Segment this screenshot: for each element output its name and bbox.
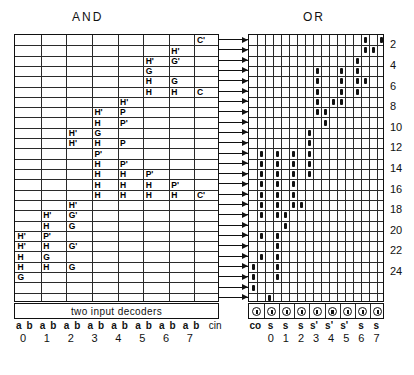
- buffer-separator: [370, 304, 371, 318]
- and-cell: H: [171, 88, 177, 97]
- or-plane-mark: [260, 202, 263, 208]
- and-cell: G: [69, 222, 76, 231]
- or-output-number: 6: [358, 332, 364, 344]
- and-cell: P': [94, 150, 102, 159]
- or-output-number: 1: [283, 332, 289, 344]
- or-plane-mark: [364, 47, 367, 53]
- or-plane-mark: [260, 233, 263, 239]
- or-plane-mark: [252, 264, 255, 270]
- and-plane: C'H'H'G'GHGHHCH'H'PHP'H'GH'HPP'HP'HHP'HH…: [14, 34, 219, 302]
- or-plane-mark: [356, 89, 359, 95]
- product-term-arrow: [219, 122, 248, 123]
- and-input-label: a: [40, 320, 46, 331]
- row-number: 4: [390, 59, 396, 71]
- product-term-arrow: [219, 111, 248, 112]
- and-cell: P: [120, 108, 126, 117]
- or-plane-mark: [356, 78, 359, 84]
- and-input-group-number: 1: [44, 332, 50, 344]
- or-plane-mark: [316, 99, 319, 105]
- or-plane-mark: [260, 254, 263, 260]
- or-plane-horizontal-lines: [249, 35, 383, 301]
- product-term-arrow: [219, 60, 248, 61]
- output-buffer-row: [248, 303, 384, 319]
- and-cell: H: [43, 242, 49, 251]
- and-cell: G: [69, 263, 76, 272]
- and-input-group-number: 7: [187, 332, 193, 344]
- and-cell: G: [146, 67, 153, 76]
- or-plane-mark: [260, 161, 263, 167]
- row-number: 22: [390, 244, 402, 256]
- and-input-label: b: [74, 320, 80, 331]
- or-output-numbers: 01234567: [248, 332, 398, 348]
- and-input-group-number: 3: [92, 332, 98, 344]
- and-cell: P': [120, 160, 128, 169]
- or-plane-mark: [276, 254, 279, 260]
- or-plane-mark: [364, 78, 367, 84]
- or-plane-mark: [324, 120, 327, 126]
- or-plane-mark: [308, 151, 311, 157]
- or-plane-mark: [276, 151, 279, 157]
- and-cell: C': [197, 36, 205, 45]
- and-cell: H: [146, 77, 152, 86]
- output-buffer: [328, 307, 337, 316]
- or-output-label: s: [358, 320, 364, 331]
- or-plane-mark: [252, 285, 255, 291]
- and-input-group-number: 6: [163, 332, 169, 344]
- and-cell: P: [120, 139, 126, 148]
- and-cell: H: [94, 191, 100, 200]
- product-term-arrow: [219, 49, 248, 50]
- product-term-arrow: [219, 194, 248, 195]
- or-plane-mark: [276, 212, 279, 218]
- and-cell: H: [43, 222, 49, 231]
- product-term-arrow: [219, 153, 248, 154]
- or-plane-mark: [340, 78, 343, 84]
- or-plane-mark: [340, 99, 343, 105]
- output-buffer: [313, 307, 322, 316]
- or-plane-mark: [276, 171, 279, 177]
- pla-diagram: AND OR C'H'H'G'GHGHHCH'H'PHP'H'GH'HPP'HP…: [0, 0, 414, 375]
- and-input-group-numbers: 01234567: [14, 332, 219, 348]
- product-term-arrow: [219, 101, 248, 102]
- product-term-arrow: [219, 287, 248, 288]
- and-cell: H': [69, 129, 77, 138]
- or-plane-mark: [276, 243, 279, 249]
- row-number: 2: [390, 38, 396, 50]
- or-plane-mark: [284, 223, 287, 229]
- product-term-arrow: [219, 266, 248, 267]
- and-cell: H': [18, 242, 26, 251]
- and-plane-title: AND: [72, 10, 103, 24]
- and-input-label: a: [64, 320, 70, 331]
- or-plane-mark: [276, 274, 279, 280]
- and-input-label: a: [111, 320, 117, 331]
- or-plane-mark: [276, 233, 279, 239]
- product-term-arrow: [219, 256, 248, 257]
- or-plane-mark: [260, 181, 263, 187]
- and-cell: H': [146, 57, 154, 66]
- and-input-label: b: [146, 320, 152, 331]
- and-input-label: b: [98, 320, 104, 331]
- row-number: 14: [390, 162, 402, 174]
- or-output-label: s': [325, 320, 333, 331]
- and-cell: H': [171, 47, 179, 56]
- or-output-label: s: [298, 320, 304, 331]
- output-buffer: [252, 307, 261, 316]
- and-cell: G: [171, 77, 178, 86]
- product-term-arrows: [219, 34, 248, 302]
- and-cell: P': [43, 232, 51, 241]
- product-term-arrow: [219, 183, 248, 184]
- and-cell: H: [120, 170, 126, 179]
- product-term-arrow: [219, 235, 248, 236]
- or-output-label: s: [283, 320, 289, 331]
- buffer-separator: [279, 304, 280, 318]
- buffer-separator: [355, 304, 356, 318]
- or-plane-title: OR: [303, 10, 325, 24]
- product-term-arrow: [219, 214, 248, 215]
- product-term-arrow: [219, 276, 248, 277]
- and-cell: H: [94, 181, 100, 190]
- or-plane-mark: [292, 181, 295, 187]
- or-output-number: 4: [328, 332, 334, 344]
- or-plane-mark: [316, 89, 319, 95]
- or-plane-mark: [260, 151, 263, 157]
- and-cell: G': [69, 242, 78, 251]
- and-cell: G: [18, 273, 25, 282]
